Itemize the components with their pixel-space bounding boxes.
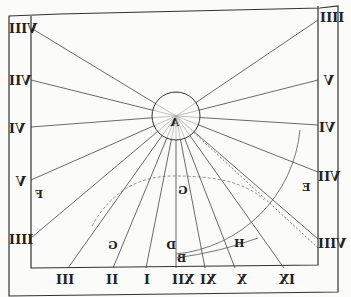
sundial-diagram: VIII VII VI V IIII IIII V VI VII VIII II… [0, 0, 351, 297]
hour-lines [31, 20, 318, 268]
lower-curve [176, 238, 258, 258]
hour-label: VI [9, 121, 26, 136]
point-label-g-top: G [178, 184, 187, 197]
outer-frame [9, 6, 338, 296]
hour-label: VI [319, 120, 336, 135]
hour-label: VII [9, 73, 32, 88]
hour-label: II [106, 272, 118, 287]
sundial-svg: VIII VII VI V IIII IIII V VI VII VIII II… [0, 0, 351, 297]
hour-label: IX [278, 272, 295, 287]
hour-label: IIII [9, 232, 33, 247]
hour-label: III [56, 272, 74, 287]
frame [9, 6, 338, 296]
center-label: A [170, 116, 180, 129]
left-labels: VIII VII VI V IIII [9, 21, 38, 247]
hour-label: V [323, 73, 335, 88]
point-label-h: H [234, 237, 244, 250]
hour-label: VIII [318, 236, 347, 251]
hour-label: VII [318, 169, 341, 184]
hour-label: I [144, 272, 150, 287]
point-label-b: B [177, 252, 186, 265]
hour-label: VIII [9, 21, 38, 36]
hour-label: X [236, 272, 247, 287]
point-label-e: E [302, 181, 310, 194]
hour-label: XII [172, 272, 194, 287]
hour-label: XI [200, 272, 216, 287]
point-label-g-left: G [108, 239, 117, 252]
point-label-d: D [166, 239, 176, 252]
hour-label: IIII [320, 10, 344, 25]
large-arc [176, 130, 300, 254]
bottom-labels: III II I XII XI X IX [56, 272, 295, 287]
right-labels: IIII V VI VII VIII [318, 10, 347, 251]
point-label-f: F [35, 188, 43, 201]
dotted-curve [92, 176, 264, 226]
hour-label: V [15, 174, 27, 189]
